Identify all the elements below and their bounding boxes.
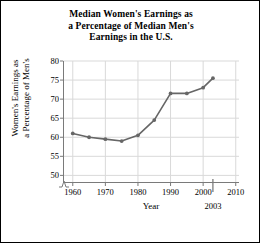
x-tick-label: 1960 [57,188,89,197]
y-tick-label: 80 [51,57,60,66]
data-series-line [63,61,239,183]
x-axis-tick-labels: 196019701980199020002010 [63,188,239,200]
chart-title-line-1: Median Women's Earnings as [1,9,260,21]
chart-title: Median Women's Earnings as a Percentage … [1,9,260,44]
y-tick-label: 70 [51,95,60,104]
x-tick-label: 1980 [122,188,154,197]
x-tick-label: 1970 [89,188,121,197]
plot-area-wrapper [63,61,239,183]
data-point-marker [87,135,91,139]
series-line [73,78,213,141]
x-tick-label: 2010 [220,188,252,197]
y-tick-label: 65 [51,114,60,123]
y-axis-label: Women's Earnings as a Percentage of Men'… [10,26,32,170]
y-tick-label: 55 [51,152,60,161]
data-point-marker [103,137,107,141]
y-axis-label-line-2: a Percentage of Men's [21,26,32,170]
y-tick-label: 75 [51,76,60,85]
y-axis-label-line-1: Women's Earnings as [10,26,21,170]
x-tick-label: 2000 [187,188,219,197]
data-point-marker [185,92,189,96]
data-point-marker [211,76,215,80]
data-point-marker [152,118,156,122]
chart-figure: Median Women's Earnings as a Percentage … [0,0,260,243]
y-tick-label: 60 [51,133,60,142]
chart-title-line-3: Earnings in the U.S. [1,32,260,44]
data-point-marker [201,86,205,90]
data-point-marker [136,133,140,137]
chart-title-line-2: a Percentage of Median Men's [1,21,260,33]
data-point-marker [169,92,173,96]
x-axis-special-tick-label: 2003 [197,201,229,211]
y-axis-tick-labels: 50556065707580 [37,61,59,183]
data-point-marker [120,139,124,143]
data-point-marker [71,132,75,136]
x-tick-label: 1990 [155,188,187,197]
